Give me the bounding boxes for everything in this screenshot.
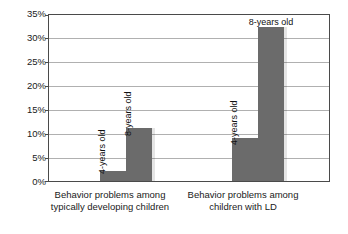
plot-area: 4-years old 8-years old 4-years old 8-ye…	[48, 14, 330, 182]
y-tick-label-3: 15%	[2, 105, 46, 115]
gridline-10	[49, 134, 329, 135]
bar-label-group1-8-years-old: 8-years old	[123, 91, 133, 136]
y-tick-label-7: 35%	[2, 9, 46, 19]
y-tick-label-4: 20%	[2, 81, 46, 91]
tick-mark-20	[45, 86, 49, 87]
gridline-5	[49, 158, 329, 159]
y-tick-label-2: 10%	[2, 129, 46, 139]
x-category-label-children-with-ld: Behavior problems among children with LD	[155, 189, 331, 213]
bar-label-group1-4-years-old: 4-years old	[97, 129, 107, 174]
y-tick-label-6: 30%	[2, 33, 46, 43]
bar-group2-8-years-old	[258, 27, 284, 181]
bar-label-group2-8-years-old: 8-years old	[221, 17, 321, 27]
x-category-label-2-line-2: children with LD	[155, 201, 331, 213]
tick-mark-15	[45, 110, 49, 111]
y-axis: 0% 5% 10% 15% 20% 25% 30% 35%	[0, 14, 46, 182]
gridline-30	[49, 38, 329, 39]
y-tick-label-1: 5%	[2, 153, 46, 163]
tick-mark-10	[45, 134, 49, 135]
tick-mark-35	[45, 15, 49, 16]
tick-mark-30	[45, 38, 49, 39]
x-category-label-2-line-1: Behavior problems among	[155, 189, 331, 201]
y-tick-label-5: 25%	[2, 57, 46, 67]
gridline-25	[49, 62, 329, 63]
gridline-15	[49, 110, 329, 111]
tick-mark-25	[45, 62, 49, 63]
tick-mark-0	[45, 181, 49, 182]
bar-chart: 0% 5% 10% 15% 20% 25% 30% 35% 4-years ol…	[0, 0, 348, 234]
bar-label-group2-4-years-old: 4-years old	[229, 100, 239, 145]
tick-mark-5	[45, 158, 49, 159]
gridline-20	[49, 86, 329, 87]
y-tick-label-0: 0%	[2, 177, 46, 187]
